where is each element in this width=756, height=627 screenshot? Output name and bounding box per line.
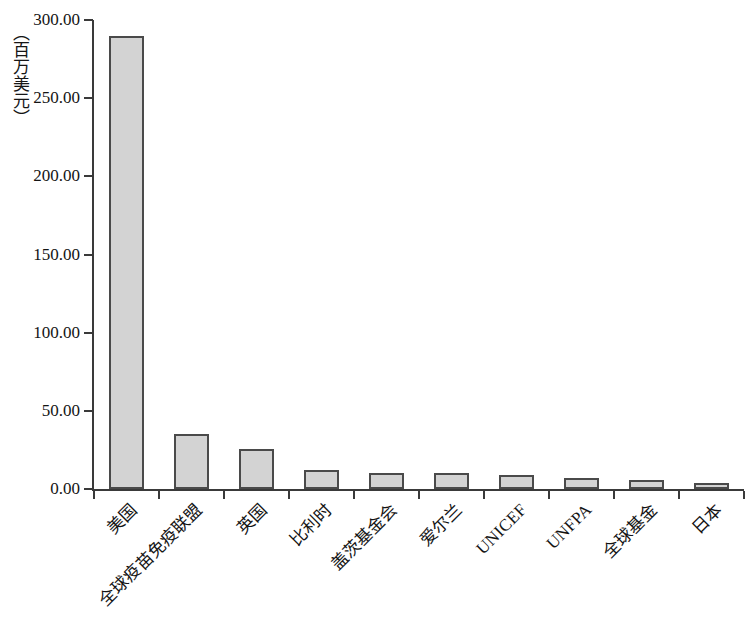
y-tick-label-wrap: 250.00 (0, 89, 80, 106)
y-tick-mark (84, 97, 93, 99)
y-tick-label: 200.00 (2, 167, 80, 184)
y-tick-label-wrap: 200.00 (0, 167, 80, 184)
y-tick-label: 100.00 (2, 324, 80, 341)
x-axis-category-label: 日本 (687, 500, 725, 538)
x-tick-mark (483, 491, 485, 499)
bar (499, 475, 533, 489)
bar (694, 483, 728, 489)
y-tick-label: 300.00 (2, 11, 80, 28)
bar-chart: （百万美元） 0.0050.00100.00150.00200.00250.00… (0, 0, 756, 627)
y-tick-label: 250.00 (2, 89, 80, 106)
y-tick-mark (84, 19, 93, 21)
y-tick-label-wrap: 300.00 (0, 11, 80, 28)
x-axis-category-label: 美国 (102, 500, 140, 538)
bar (369, 473, 403, 489)
x-tick-mark (353, 491, 355, 499)
bar (174, 434, 208, 489)
bar (239, 449, 273, 489)
x-axis-category-label: 盖茨基金会 (326, 500, 400, 574)
x-axis-category-label: UNFPA (542, 500, 596, 554)
y-tick-label: 150.00 (2, 246, 80, 263)
x-tick-mark (223, 491, 225, 499)
x-axis-category-label: 英国 (232, 500, 270, 538)
x-axis-category-label: UNICEF (472, 500, 531, 559)
x-tick-mark (613, 491, 615, 499)
y-tick-mark (84, 410, 93, 412)
y-tick-mark (84, 175, 93, 177)
y-tick-label: 0.00 (2, 480, 80, 497)
y-axis-unit-label: （百万美元） (3, 24, 29, 126)
y-tick-label-wrap: 150.00 (0, 246, 80, 263)
x-tick-mark (418, 491, 420, 499)
y-tick-label: 50.00 (2, 402, 80, 419)
x-tick-mark (158, 491, 160, 499)
bar (304, 470, 338, 489)
plot-area (94, 20, 744, 489)
x-tick-mark (743, 491, 745, 499)
x-axis-category-label: 爱尔兰 (415, 500, 465, 550)
bar (434, 473, 468, 489)
x-tick-mark (288, 491, 290, 499)
x-tick-mark (93, 491, 95, 499)
bar (564, 478, 598, 489)
y-tick-mark (84, 488, 93, 490)
x-tick-mark (678, 491, 680, 499)
bar (629, 480, 663, 489)
y-tick-label-wrap: 50.00 (0, 402, 80, 419)
x-axis-category-label: 全球基金 (598, 500, 660, 562)
y-tick-label-wrap: 0.00 (0, 480, 80, 497)
y-tick-mark (84, 332, 93, 334)
bar (109, 36, 143, 489)
y-tick-mark (84, 254, 93, 256)
y-tick-label-wrap: 100.00 (0, 324, 80, 341)
x-tick-mark (548, 491, 550, 499)
x-axis-category-label: 比利时 (285, 500, 335, 550)
